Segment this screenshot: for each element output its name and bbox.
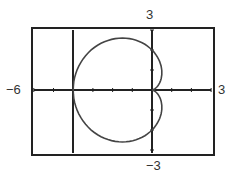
window-frame [32, 28, 214, 155]
x-max-label: 3 [218, 82, 225, 97]
y-max-label: 3 [146, 7, 153, 22]
y-min-label: −3 [146, 158, 161, 173]
x-min-label: −6 [6, 82, 21, 97]
polar-plot [0, 0, 233, 176]
